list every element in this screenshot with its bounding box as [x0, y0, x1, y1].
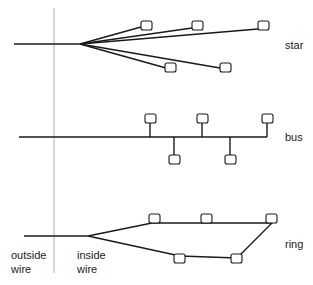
star-node [165, 63, 176, 72]
bus-topology [19, 123, 267, 155]
bus-node [225, 155, 236, 164]
inside-wire-label-line2: wire [77, 262, 97, 276]
ring-topology [24, 223, 272, 258]
ring-nodes [149, 214, 277, 263]
bus-node [262, 114, 273, 123]
bus-node [197, 114, 208, 123]
star-nodes [141, 21, 269, 72]
ring-node [266, 214, 277, 223]
star-node [192, 21, 203, 30]
star-node [141, 21, 152, 30]
outside-wire-label-line2: wire [11, 262, 31, 276]
outside-wire-label-line1: outside [11, 248, 46, 262]
ring-label: ring [285, 237, 303, 251]
star-topology [14, 27, 258, 68]
bus-label: bus [285, 130, 303, 144]
ring-node [174, 254, 185, 263]
bus-node [169, 155, 180, 164]
ring-node [201, 214, 212, 223]
bus-node [145, 114, 156, 123]
network-topology-diagram: star bus ring outside wire inside wire [0, 0, 313, 285]
star-label: star [285, 38, 303, 52]
diagram-svg [0, 0, 313, 285]
ring-node [231, 254, 242, 263]
ring-node [149, 214, 160, 223]
inside-wire-label-line1: inside [77, 248, 106, 262]
bus-nodes [145, 114, 273, 164]
star-node [258, 21, 269, 30]
star-node [220, 63, 231, 72]
